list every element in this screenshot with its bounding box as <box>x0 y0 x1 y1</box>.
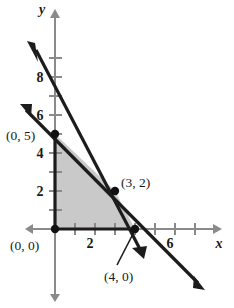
y-tick-label-6: 6 <box>37 108 44 123</box>
y-axis-arrowhead-up <box>50 9 60 18</box>
vertex-dot-0-5 <box>51 130 59 138</box>
coordinate-plane-svg: 8 6 4 2 2 6 y x (0, 5) (3, 2) (4, 0) (0,… <box>0 0 234 308</box>
y-tick-label-4: 4 <box>37 146 44 161</box>
y-tick-label-8: 8 <box>37 70 44 85</box>
y-axis-arrowhead-down <box>50 294 60 302</box>
leader-line-4-0 <box>117 232 134 265</box>
constraint-line-steep-arrowhead-lower <box>132 246 147 259</box>
x-tick-label-6: 6 <box>167 236 174 251</box>
x-axis-arrowhead-left <box>25 224 33 234</box>
x-axis-arrowhead-right <box>213 224 222 234</box>
x-axis-label: x <box>215 236 223 251</box>
y-tick-label-2: 2 <box>37 184 44 199</box>
graph-figure: 8 6 4 2 2 6 y x (0, 5) (3, 2) (4, 0) (0,… <box>0 0 234 308</box>
constraint-line-shallow-arrowhead-upper <box>20 104 32 117</box>
x-tick-label-2: 2 <box>87 236 94 251</box>
y-axis-label: y <box>37 2 46 17</box>
point-label-0-0: (0, 0) <box>10 238 39 253</box>
point-label-3-2: (3, 2) <box>121 175 150 190</box>
vertex-dot-4-0 <box>131 225 139 233</box>
vertex-dot-origin <box>51 225 59 233</box>
point-label-4-0: (4, 0) <box>104 269 133 284</box>
constraint-line-shallow-arrowhead-lower <box>193 276 205 290</box>
point-label-0-5: (0, 5) <box>6 128 35 143</box>
vertex-dot-3-2 <box>111 187 119 195</box>
